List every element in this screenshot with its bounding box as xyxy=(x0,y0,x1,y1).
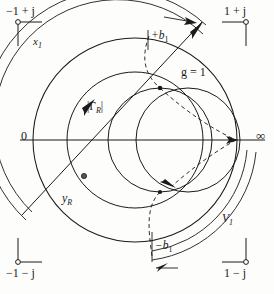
susceptance-arc-lower-right xyxy=(172,140,236,186)
v1-scale-label: V1 xyxy=(222,213,233,227)
match-point-upper-dot xyxy=(158,86,163,91)
y-r-diagonal-line xyxy=(22,22,202,215)
corner-label-bottom-right: 1 − j xyxy=(224,267,246,279)
corner-marker-top-right xyxy=(222,20,248,46)
unity-conductance-label: g = 1 xyxy=(181,66,206,78)
gamma-magnitude-label: |ΓR| xyxy=(87,101,103,115)
susceptance-lower-arrowhead xyxy=(160,179,176,188)
y-r-point-dot xyxy=(81,173,86,178)
corner-marker-bottom-right xyxy=(222,238,248,264)
corner-label-top-right: 1 + j xyxy=(224,5,246,17)
v1-scale-arrowhead xyxy=(156,263,168,272)
v1-subscript: 1 xyxy=(229,218,233,227)
y-r-subscript: R xyxy=(67,198,72,207)
smith-chart-figure: −1 + j 1 + j −1 − j 1 − j 0 ∞ |ΓR| g = 1… xyxy=(0,0,274,294)
susceptance-minus-label: −b1 xyxy=(155,240,173,254)
corner-marker-bottom-left xyxy=(16,238,42,264)
match-point-lower-dot xyxy=(158,190,162,194)
y-r-label: yR xyxy=(62,192,72,207)
b-plus-subscript: 1 xyxy=(165,35,169,44)
axis-label-infinity: ∞ xyxy=(256,129,265,142)
x1-scale-label: x1 xyxy=(33,36,42,50)
corner-label-bottom-left: −1 − j xyxy=(6,267,35,279)
x1-subscript: 1 xyxy=(38,41,42,50)
axis-label-zero: 0 xyxy=(21,130,27,142)
susceptance-plus-label: +b1 xyxy=(151,30,169,44)
corner-label-top-left: −1 + j xyxy=(6,5,35,17)
b-minus-subscript: 1 xyxy=(169,245,173,254)
